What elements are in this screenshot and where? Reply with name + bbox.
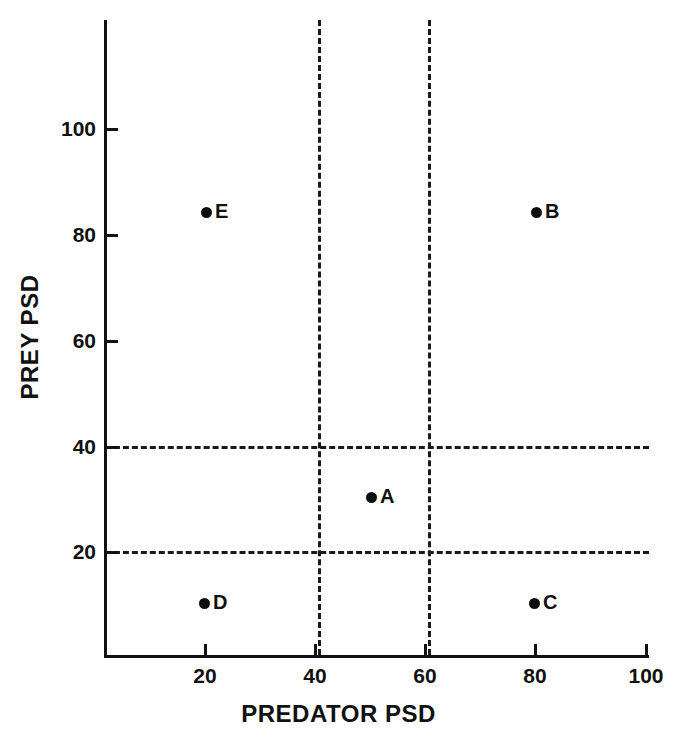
data-marker-dot	[529, 598, 540, 609]
y-tick-40	[107, 446, 118, 449]
y-tick-label-60: 60	[73, 330, 96, 351]
reference-line-vertical-60	[428, 20, 431, 655]
y-tick-80	[107, 234, 118, 237]
reference-line-horizontal-20	[105, 551, 649, 554]
x-tick-20	[204, 644, 207, 655]
reference-line-horizontal-40	[105, 446, 649, 449]
x-tick-80	[534, 644, 537, 655]
x-tick-label-100: 100	[628, 665, 663, 686]
data-marker-dot	[201, 207, 212, 218]
x-tick-40	[314, 644, 317, 655]
x-tick-100	[645, 644, 648, 655]
data-marker-dot	[531, 207, 542, 218]
reference-line-vertical-40	[318, 20, 321, 655]
y-tick-label-20: 20	[73, 541, 96, 562]
y-tick-label-80: 80	[73, 224, 96, 245]
data-point-label: E	[215, 201, 228, 221]
data-point-label: A	[380, 486, 394, 506]
y-tick-60	[107, 340, 118, 343]
y-axis-title: PREY PSD	[16, 275, 44, 400]
y-tick-100	[107, 128, 118, 131]
y-tick-label-40: 40	[73, 436, 96, 457]
data-point-label: D	[213, 592, 227, 612]
x-tick-60	[424, 644, 427, 655]
x-axis-title: PREDATOR PSD	[0, 700, 677, 728]
scatter-plot-figure: 100 80 60 40 20 20 40 60 80 100 E B A D	[0, 0, 677, 739]
data-marker-dot	[366, 492, 377, 503]
y-tick-20	[107, 551, 118, 554]
y-axis-line	[104, 20, 107, 658]
data-point-label: B	[545, 201, 559, 221]
x-tick-label-40: 40	[303, 665, 326, 686]
data-point-label: C	[543, 592, 557, 612]
x-tick-label-60: 60	[413, 665, 436, 686]
data-marker-dot	[199, 598, 210, 609]
y-tick-label-100: 100	[61, 118, 96, 139]
x-tick-label-20: 20	[193, 665, 216, 686]
x-axis-line	[104, 655, 649, 658]
x-tick-label-80: 80	[523, 665, 546, 686]
